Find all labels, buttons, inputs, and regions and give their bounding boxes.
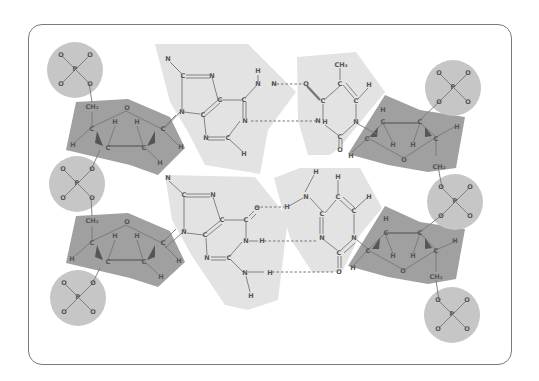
svg-text:O: O bbox=[89, 165, 95, 173]
svg-text:C: C bbox=[244, 216, 249, 224]
svg-text:N: N bbox=[181, 228, 186, 236]
svg-text:C: C bbox=[352, 207, 357, 215]
svg-text:N: N bbox=[210, 191, 215, 199]
svg-text:C: C bbox=[434, 247, 439, 255]
svg-text:N: N bbox=[303, 193, 308, 201]
svg-text:O: O bbox=[58, 51, 64, 59]
svg-text:N: N bbox=[351, 234, 356, 242]
svg-text:N: N bbox=[353, 118, 358, 126]
svg-text:C: C bbox=[381, 118, 386, 126]
svg-text:O: O bbox=[467, 212, 473, 220]
svg-text:C: C bbox=[320, 210, 325, 218]
svg-text:H: H bbox=[158, 273, 163, 281]
svg-text:C: C bbox=[365, 135, 370, 143]
svg-text:O: O bbox=[465, 98, 471, 106]
svg-text:H: H bbox=[134, 232, 139, 240]
svg-text:C: C bbox=[161, 125, 166, 133]
svg-text:C: C bbox=[90, 125, 95, 133]
svg-text:H: H bbox=[69, 255, 74, 263]
svg-text:N: N bbox=[255, 80, 260, 88]
svg-text:O: O bbox=[60, 194, 66, 202]
svg-text:C: C bbox=[338, 133, 343, 141]
svg-text:C: C bbox=[338, 80, 343, 88]
svg-text:O: O bbox=[58, 80, 64, 88]
svg-text:N: N bbox=[203, 134, 208, 142]
svg-text:H: H bbox=[255, 67, 260, 75]
svg-text:O: O bbox=[254, 204, 260, 212]
svg-text:P: P bbox=[73, 65, 78, 73]
svg-text:N: N bbox=[315, 117, 320, 125]
svg-text:H: H bbox=[390, 141, 395, 149]
svg-text:O: O bbox=[436, 98, 442, 106]
svg-text:O: O bbox=[90, 308, 96, 316]
svg-text:H: H bbox=[178, 143, 183, 151]
svg-text:N: N bbox=[271, 80, 276, 88]
svg-text:CH₂: CH₂ bbox=[432, 163, 445, 171]
svg-text:C: C bbox=[227, 254, 232, 262]
svg-text:C: C bbox=[242, 96, 247, 104]
svg-text:O: O bbox=[464, 296, 470, 304]
svg-text:O: O bbox=[60, 165, 66, 173]
svg-text:O: O bbox=[336, 268, 342, 276]
dna-structure-diagram: O O P O O O O P O O O O P O O O O P O O … bbox=[0, 0, 539, 381]
svg-text:H: H bbox=[248, 292, 253, 300]
svg-text:C: C bbox=[220, 216, 225, 224]
svg-text:O: O bbox=[464, 325, 470, 333]
svg-text:C: C bbox=[366, 247, 371, 255]
svg-text:H: H bbox=[176, 257, 181, 265]
svg-text:CH₃: CH₃ bbox=[334, 61, 347, 69]
svg-text:N: N bbox=[204, 254, 209, 262]
svg-text:N: N bbox=[209, 72, 214, 80]
svg-text:O: O bbox=[124, 104, 130, 112]
svg-text:C: C bbox=[418, 229, 423, 237]
svg-text:C: C bbox=[418, 118, 423, 126]
svg-text:H: H bbox=[410, 252, 415, 260]
svg-text:P: P bbox=[451, 83, 456, 91]
svg-text:C: C bbox=[201, 111, 206, 119]
svg-text:C: C bbox=[142, 258, 147, 266]
svg-text:O: O bbox=[438, 212, 444, 220]
svg-text:C: C bbox=[226, 134, 231, 142]
svg-text:C: C bbox=[321, 97, 326, 105]
svg-text:O: O bbox=[124, 218, 130, 226]
svg-text:N: N bbox=[243, 237, 248, 245]
svg-text:H: H bbox=[390, 252, 395, 260]
svg-text:H: H bbox=[241, 150, 246, 158]
svg-text:C: C bbox=[106, 144, 111, 152]
svg-text:H: H bbox=[112, 118, 117, 126]
svg-text:CH₂: CH₂ bbox=[85, 217, 98, 225]
svg-text:P: P bbox=[453, 197, 458, 205]
svg-text:H: H bbox=[452, 237, 457, 245]
svg-text:O: O bbox=[337, 146, 343, 154]
svg-text:H: H bbox=[366, 81, 371, 89]
svg-text:O: O bbox=[435, 296, 441, 304]
svg-text:O: O bbox=[87, 80, 93, 88]
svg-text:O: O bbox=[87, 51, 93, 59]
svg-text:O: O bbox=[467, 183, 473, 191]
svg-text:H: H bbox=[380, 106, 385, 114]
svg-text:H: H bbox=[259, 237, 264, 245]
svg-text:C: C bbox=[218, 96, 223, 104]
svg-text:H: H bbox=[454, 123, 459, 131]
svg-text:O: O bbox=[400, 267, 406, 275]
svg-text:C: C bbox=[181, 72, 186, 80]
svg-text:C: C bbox=[142, 144, 147, 152]
svg-text:H: H bbox=[313, 168, 318, 176]
svg-text:H: H bbox=[322, 118, 327, 126]
svg-text:C: C bbox=[182, 191, 187, 199]
svg-text:O: O bbox=[61, 279, 67, 287]
svg-text:N: N bbox=[179, 108, 184, 116]
svg-text:H: H bbox=[410, 141, 415, 149]
svg-text:C: C bbox=[106, 258, 111, 266]
svg-text:CH₂: CH₂ bbox=[429, 273, 442, 281]
svg-text:N: N bbox=[242, 117, 247, 125]
svg-text:H: H bbox=[157, 159, 162, 167]
svg-text:O: O bbox=[89, 194, 95, 202]
svg-text:C: C bbox=[203, 231, 208, 239]
svg-text:P: P bbox=[75, 179, 80, 187]
svg-text:N: N bbox=[165, 55, 170, 63]
svg-text:C: C bbox=[354, 97, 359, 105]
svg-text:O: O bbox=[438, 183, 444, 191]
svg-text:O: O bbox=[303, 80, 309, 88]
svg-text:H: H bbox=[134, 118, 139, 126]
